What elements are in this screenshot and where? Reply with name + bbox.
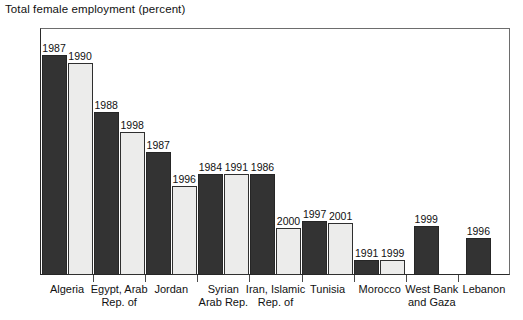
bar-item[interactable]: 2001 — [328, 223, 353, 275]
bar[interactable] — [172, 186, 197, 275]
x-axis-category-line: Rep. of — [87, 296, 151, 309]
bar-item[interactable]: 1998 — [120, 132, 145, 275]
bar-group-inner: 19862000 — [249, 28, 301, 275]
bar[interactable] — [328, 223, 353, 275]
bar-item[interactable]: 1999 — [380, 260, 405, 275]
bar-group-inner: 19881998 — [93, 28, 145, 275]
bar[interactable] — [68, 63, 93, 275]
bar-item[interactable]: 1987 — [42, 55, 67, 275]
bar-year-label: 1997 — [303, 208, 326, 220]
bar-group: 19871990 — [41, 28, 93, 275]
bar-year-label: 2000 — [277, 215, 300, 227]
bar[interactable] — [354, 260, 379, 275]
bar-year-label: 1987 — [147, 139, 170, 151]
bar-group: 1996 — [458, 28, 510, 275]
bar-group: 19841991 — [197, 28, 249, 275]
x-axis-category-line: Rep. of — [243, 296, 307, 309]
category-separator — [249, 275, 250, 282]
bar-group-inner: 1999 — [406, 28, 458, 275]
bar[interactable] — [276, 228, 301, 275]
bar-group-inner: 19841991 — [197, 28, 249, 275]
bar[interactable] — [466, 238, 491, 275]
category-separator — [354, 275, 355, 282]
y-axis: 1009080706050403020100 — [0, 0, 40, 320]
category-separator — [302, 275, 303, 282]
bar[interactable] — [94, 112, 119, 275]
x-axis-category-line: Lebanon — [452, 283, 516, 296]
bar-item[interactable]: 1987 — [146, 152, 171, 276]
bar-group: 19871996 — [145, 28, 197, 275]
bar-year-label: 1999 — [381, 247, 404, 259]
bar-group: 1999 — [406, 28, 458, 275]
bar-group: 19862000 — [249, 28, 301, 275]
bar-group: 19972001 — [302, 28, 354, 275]
chart-container: Total female employment (percent) 100908… — [0, 0, 523, 320]
bar-year-label: 1996 — [173, 173, 196, 185]
bar-item[interactable]: 1991 — [354, 260, 379, 275]
bars-area: 1987199019881998198719961984199119862000… — [41, 28, 510, 275]
category-separator — [197, 275, 198, 282]
bar[interactable] — [414, 226, 439, 275]
bar-group-inner: 19972001 — [302, 28, 354, 275]
bar-group-inner: 19871990 — [41, 28, 93, 275]
bar-year-label: 1998 — [120, 119, 143, 131]
bar-item[interactable]: 1996 — [466, 238, 491, 275]
bar-item[interactable]: 2000 — [276, 228, 301, 275]
bar-item[interactable]: 1991 — [224, 174, 249, 275]
bar-item[interactable]: 1986 — [250, 174, 275, 275]
bar-item[interactable]: 1997 — [302, 221, 327, 275]
bar[interactable] — [302, 221, 327, 275]
bar-year-label: 1987 — [42, 42, 65, 54]
bar-year-label: 1988 — [94, 99, 117, 111]
bar-item[interactable]: 1988 — [94, 112, 119, 275]
bar-item[interactable]: 1984 — [198, 174, 223, 275]
bar[interactable] — [146, 152, 171, 276]
x-axis-category-line: and Gaza — [400, 296, 464, 309]
bar[interactable] — [224, 174, 249, 275]
bar-year-label: 2001 — [329, 210, 352, 222]
bar[interactable] — [120, 132, 145, 275]
bar-year-label: 1999 — [415, 213, 438, 225]
bar[interactable] — [380, 260, 405, 275]
category-separator — [406, 275, 407, 282]
x-axis-category-label: Lebanon — [452, 283, 516, 296]
bar-year-label: 1984 — [199, 161, 222, 173]
category-separator — [93, 275, 94, 282]
bar-year-label: 1986 — [251, 161, 274, 173]
bar-year-label: 1991 — [225, 161, 248, 173]
bar-year-label: 1991 — [355, 247, 378, 259]
category-separator — [458, 275, 459, 282]
bar[interactable] — [42, 55, 67, 275]
bar-group-inner: 19911999 — [354, 28, 406, 275]
bar-year-label: 1990 — [68, 50, 91, 62]
bar-year-label: 1996 — [467, 225, 490, 237]
category-separator — [145, 275, 146, 282]
bar-item[interactable]: 1990 — [68, 63, 93, 275]
bar-group-inner: 19871996 — [145, 28, 197, 275]
bar-item[interactable]: 1999 — [414, 226, 439, 275]
bar-group: 19881998 — [93, 28, 145, 275]
bar[interactable] — [198, 174, 223, 275]
bar-group: 19911999 — [354, 28, 406, 275]
bar-group-inner: 1996 — [458, 28, 510, 275]
bar-item[interactable]: 1996 — [172, 186, 197, 275]
bar[interactable] — [250, 174, 275, 275]
